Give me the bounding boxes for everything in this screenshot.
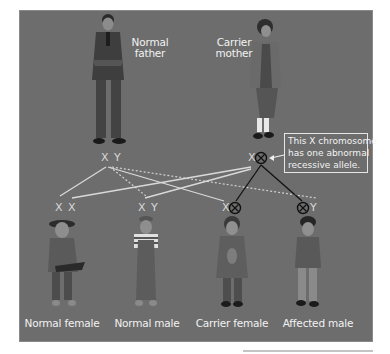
normal-female-figure xyxy=(48,220,85,306)
carrier-female-label: Carrier female xyxy=(187,318,277,329)
father-figure xyxy=(92,14,126,144)
mother-label-line2: mother xyxy=(204,48,264,59)
normal-male-label: Normal male xyxy=(102,318,192,329)
crossed-circle-icon xyxy=(230,203,241,214)
callout-line2: has one abnormal xyxy=(288,147,364,159)
line-mother-affected-to-carrier-female xyxy=(236,165,261,201)
normal-female-label: Normal female xyxy=(17,318,107,329)
affected-male-y-chromosome: Y xyxy=(310,202,318,214)
mother-label: Carrier mother xyxy=(204,37,264,59)
inheritance-diagram xyxy=(0,0,390,354)
normal-male-chromosomes: X Y xyxy=(138,202,159,214)
father-label-line2: father xyxy=(120,48,180,59)
crossed-circle-icon xyxy=(256,153,267,164)
allele-callout: This X chromosome has one abnormal reces… xyxy=(284,133,368,173)
mother-normal-chromosome: X xyxy=(248,152,257,164)
normal-male-figure xyxy=(134,216,158,306)
callout-line1: This X chromosome xyxy=(288,135,364,147)
father-chromosomes: X Y xyxy=(101,152,122,164)
affected-male-label: Affected male xyxy=(273,318,363,329)
line-father-x-to-normal-female xyxy=(60,167,106,196)
crossed-circle-icon xyxy=(298,203,309,214)
father-label: Normal father xyxy=(120,37,180,59)
normal-female-chromosomes: X X xyxy=(55,202,77,214)
affected-male-figure xyxy=(295,216,321,307)
callout-line3: recessive allele. xyxy=(288,159,364,171)
carrier-female-figure xyxy=(216,216,248,307)
line-father-x-to-carrier-female xyxy=(108,167,224,201)
carrier-female-normal-chromosome: X xyxy=(222,202,231,214)
